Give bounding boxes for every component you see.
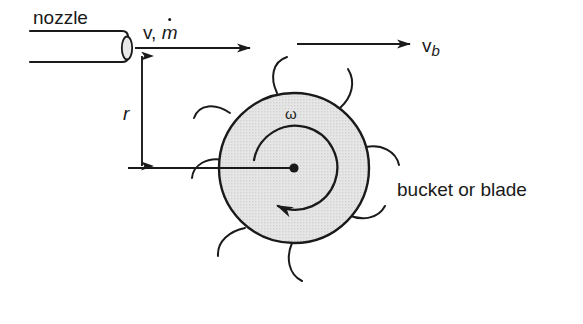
bucket-blade	[289, 243, 302, 281]
mdot-overdot-icon	[168, 18, 171, 21]
wheel-hub-center-dot	[289, 163, 298, 172]
impulse-turbine-diagram: nozzle v, m vb r ω bucket or blade	[0, 0, 583, 324]
mass-flow-rate-letter: m	[162, 22, 178, 43]
angular-velocity-label: ω	[285, 106, 297, 121]
nozzle-assembly	[30, 31, 132, 62]
bucket-velocity-symbol: v	[422, 35, 432, 56]
bucket-velocity-label: vb	[422, 36, 440, 58]
bucket-or-blade-label: bucket or blade	[397, 180, 527, 199]
bucket-blade	[340, 69, 352, 108]
bucket-blade	[273, 57, 287, 93]
nozzle-orifice-icon	[122, 37, 132, 60]
bucket-blade	[194, 106, 230, 118]
jet-velocity-symbol: v,	[143, 22, 156, 43]
diagram-canvas	[0, 0, 583, 324]
bucket-blade	[218, 228, 245, 256]
radius-label: r	[123, 104, 129, 123]
nozzle-label: nozzle	[33, 8, 88, 27]
jet-velocity-massflow-label: v, m	[143, 23, 177, 42]
nozzle-body-outline	[30, 31, 128, 62]
bucket-velocity-subscript: b	[432, 42, 440, 59]
mass-flow-rate-symbol: m	[162, 23, 178, 42]
bucket-blade	[366, 146, 399, 165]
